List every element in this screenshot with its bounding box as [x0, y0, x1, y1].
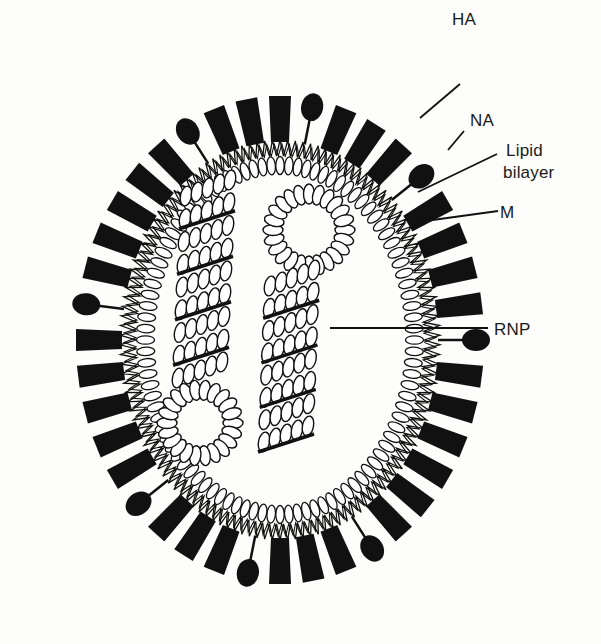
m-protein-subunit	[139, 369, 158, 380]
m-protein-subunit	[266, 157, 276, 176]
ha-spike	[82, 257, 132, 290]
rnp-left-subunit	[215, 351, 230, 373]
label-lipid: Lipid	[506, 141, 543, 160]
m-protein-subunit	[406, 336, 424, 344]
m-protein-subunit	[139, 300, 158, 311]
ha-spike	[204, 105, 242, 156]
m-protein-subunit	[276, 157, 284, 175]
leader-line-ha	[420, 84, 460, 118]
rnp-left-subunit	[217, 306, 232, 328]
ha-spike	[319, 524, 357, 575]
m-protein-subunit	[137, 324, 155, 333]
ha-spike	[77, 360, 125, 388]
m-protein-subunit	[404, 358, 423, 368]
ha-spike	[417, 420, 468, 458]
label-m: M	[500, 203, 514, 222]
rnp-left-subunit	[219, 260, 234, 282]
rnp-right-subunit	[301, 393, 316, 415]
na-spike	[234, 533, 266, 588]
virus-diagram: HA NA Lipid bilayer M RNP	[0, 0, 601, 644]
label-ha: HA	[452, 10, 476, 29]
label-rnp: RNP	[494, 320, 531, 339]
m-protein-subunit	[137, 358, 156, 368]
label-na: NA	[470, 111, 494, 130]
ha-spike	[428, 257, 478, 290]
label-bilayer: bilayer	[503, 163, 554, 182]
m-protein-subunit	[284, 157, 294, 176]
m-protein-subunit	[400, 289, 419, 301]
m-protein-subunit	[143, 278, 163, 291]
m-protein-subunit	[137, 347, 155, 356]
rnp-right-subunit	[305, 304, 320, 326]
ha-spike	[236, 97, 267, 146]
ha-spike	[435, 292, 483, 320]
m-protein-subunit	[140, 289, 159, 301]
m-protein-subunit	[400, 379, 419, 391]
ha-spike	[82, 391, 132, 424]
rnp-left-subunit	[221, 215, 236, 237]
ha-spike	[294, 533, 325, 582]
m-protein-subunit	[143, 390, 163, 403]
m-protein-subunit	[137, 336, 155, 344]
m-protein-subunit	[140, 379, 159, 391]
ha-spike	[428, 391, 478, 424]
m-protein-subunit	[137, 312, 156, 322]
ha-spike	[269, 96, 291, 142]
m-protein-subunit	[284, 505, 294, 524]
ha-spike	[76, 329, 122, 351]
m-protein-subunit	[276, 506, 284, 524]
ha-spike	[435, 360, 483, 388]
na-spike	[294, 91, 326, 146]
rnp-right-subunit	[303, 348, 318, 370]
ha-spike	[92, 223, 143, 261]
m-protein-subunit	[402, 369, 421, 380]
ha-spike	[417, 223, 468, 261]
m-protein-subunit	[398, 390, 418, 403]
ha-spike	[92, 420, 143, 458]
m-protein-subunit	[266, 505, 276, 524]
m-protein-subunit	[405, 347, 423, 356]
na-spike	[71, 292, 125, 320]
m-protein-subunit	[404, 312, 423, 322]
leader-line-na	[448, 131, 464, 150]
m-protein-subunit	[402, 300, 421, 311]
ha-spike	[269, 538, 291, 584]
na-spike	[438, 329, 490, 351]
m-protein-subunit	[398, 278, 418, 291]
